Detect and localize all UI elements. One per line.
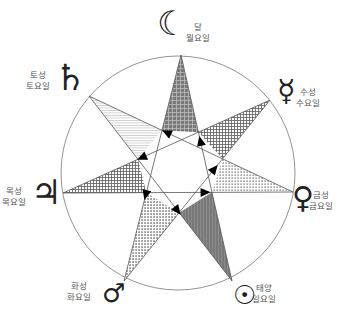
- tip-venus: [212, 159, 293, 193]
- saturn-symbol-icon: ♄: [54, 60, 86, 96]
- sun-label: 태양일요일: [252, 283, 276, 305]
- planet-name: 달: [186, 22, 210, 33]
- planet-name: 금성: [309, 190, 333, 201]
- tip-saturn: [89, 96, 162, 159]
- star-tips: [63, 55, 293, 281]
- tip-moon: [162, 55, 198, 132]
- moon-label: 달월요일: [186, 22, 210, 44]
- mercury-symbol-icon: ☿: [277, 76, 295, 106]
- weekday-name: 월요일: [186, 33, 210, 44]
- weekday-name: 수요일: [296, 98, 320, 109]
- weekday-name: 화요일: [67, 292, 91, 303]
- weekday-name: 금요일: [309, 201, 333, 212]
- saturn-label: 토성토요일: [26, 70, 50, 92]
- jupiter-symbol-icon: ♃: [31, 175, 61, 209]
- planet-name: 토성: [26, 70, 50, 81]
- weekday-name: 목요일: [2, 197, 26, 208]
- weekday-name: 토요일: [26, 81, 50, 92]
- moon-symbol-icon: ☾: [157, 6, 187, 40]
- tip-mars: [124, 193, 179, 281]
- mars-symbol-icon: ♂: [102, 280, 125, 306]
- planet-name: 목성: [2, 186, 26, 197]
- planet-name: 화성: [67, 281, 91, 292]
- tip-sun: [179, 192, 232, 281]
- jupiter-label: 목성목요일: [2, 186, 26, 208]
- venus-label: 금성금요일: [309, 190, 333, 212]
- mercury-label: 수성수요일: [296, 87, 320, 109]
- planet-name: 수성: [296, 87, 320, 98]
- weekday-name: 일요일: [252, 294, 276, 305]
- planet-name: 태양: [252, 283, 276, 294]
- heptagram-diagram: [0, 0, 354, 317]
- tip-jupiter: [63, 159, 146, 193]
- tip-mercury: [198, 100, 270, 159]
- mars-label: 화성화요일: [67, 281, 91, 303]
